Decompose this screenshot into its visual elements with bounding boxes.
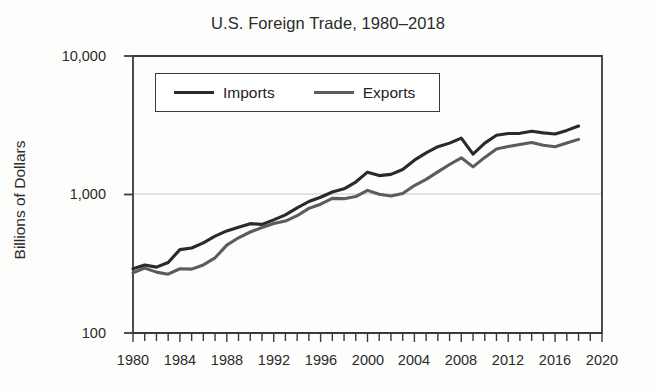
y-axis-tick-marks [124,56,133,333]
line-chart-figure: U.S. Foreign Trade, 1980–2018 Billions o… [0,0,656,390]
chart-page: U.S. Foreign Trade, 1980–2018 Billions o… [0,0,656,390]
legend-swatch-imports-icon [174,91,214,94]
legend-entry-exports: Exports [314,84,416,102]
legend-label-exports: Exports [363,84,416,102]
legend-entry-imports: Imports [174,84,275,102]
plot-area [0,0,656,390]
legend-swatch-exports-icon [314,91,354,94]
chart-legend: Imports Exports [155,73,440,112]
legend-label-imports: Imports [223,84,275,102]
x-axis-tick-marks [133,333,602,342]
data-line-exports [133,139,579,274]
